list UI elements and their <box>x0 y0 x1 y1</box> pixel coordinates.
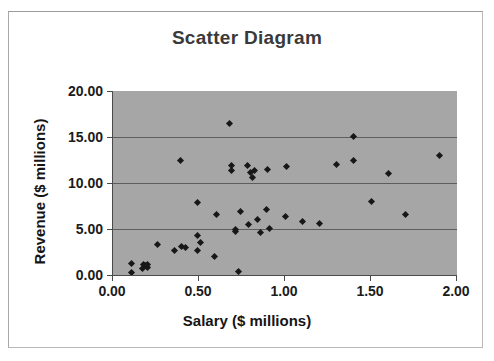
x-axis-title: Salary ($ millions) <box>0 312 494 329</box>
y-tick-label: 5.00 <box>41 221 103 237</box>
plot-area <box>112 91 457 276</box>
data-point <box>232 228 239 235</box>
y-tick-label: 15.00 <box>41 129 103 145</box>
data-point <box>228 167 235 174</box>
data-point <box>249 174 256 181</box>
data-point <box>299 218 306 225</box>
gridline <box>113 183 457 184</box>
data-point <box>182 244 189 251</box>
data-point <box>128 259 135 266</box>
data-point <box>177 157 184 164</box>
x-tick-label: 2.00 <box>421 283 491 299</box>
data-point <box>226 120 233 127</box>
data-point <box>257 229 264 236</box>
scatter-chart-figure: Scatter Diagram Revenue ($ millions) Sal… <box>0 0 494 361</box>
plot-inner <box>113 91 457 275</box>
data-point <box>385 170 392 177</box>
data-point <box>128 269 135 275</box>
data-point <box>237 208 244 215</box>
data-point <box>350 133 357 140</box>
data-point <box>154 241 161 248</box>
data-point <box>245 221 252 228</box>
data-point <box>367 198 374 205</box>
data-point <box>171 247 178 254</box>
data-point <box>350 157 357 164</box>
data-point <box>316 220 323 227</box>
data-point <box>263 206 270 213</box>
data-point <box>402 211 409 218</box>
data-point <box>197 239 204 246</box>
data-point <box>281 213 288 220</box>
data-point <box>283 163 290 170</box>
data-point <box>436 152 443 159</box>
y-tick-label: 0.00 <box>41 267 103 283</box>
data-point <box>333 161 340 168</box>
data-point <box>235 268 242 275</box>
x-tick-label: 0.50 <box>163 283 233 299</box>
x-tick-label: 0.00 <box>77 283 147 299</box>
data-point <box>264 166 271 173</box>
data-point <box>266 225 273 232</box>
gridline <box>113 137 457 138</box>
y-tick-label: 20.00 <box>41 83 103 99</box>
y-tick-label: 10.00 <box>41 175 103 191</box>
chart-title: Scatter Diagram <box>0 27 494 49</box>
data-point <box>194 199 201 206</box>
data-point <box>254 216 261 223</box>
x-tick-label: 1.50 <box>335 283 405 299</box>
x-tick-label: 1.00 <box>249 283 319 299</box>
data-point <box>211 253 218 260</box>
data-point <box>194 247 201 254</box>
gridline <box>113 229 457 230</box>
data-point <box>213 211 220 218</box>
